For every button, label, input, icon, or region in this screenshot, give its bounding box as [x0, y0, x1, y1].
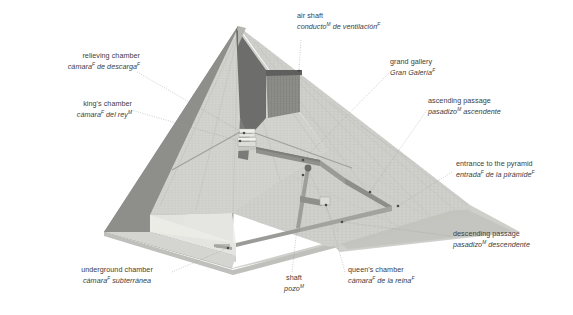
gender-marker: F: [532, 170, 535, 175]
label-descending-passage-en: descending passage: [453, 229, 530, 238]
label-queens-chamber-en: queen's chamber: [348, 265, 414, 274]
label-ascending-passage: ascending passage pasadizoM ascendente: [428, 96, 501, 117]
gender-marker: F: [377, 22, 380, 27]
gender-marker: F: [411, 276, 414, 281]
label-air-shaft: air shaft conductoM de ventilaciónF: [297, 11, 380, 32]
gender-marker: M: [300, 284, 304, 289]
label-shaft-es: pozoM: [272, 282, 316, 294]
label-kings-chamber-en: king's chamber: [22, 99, 132, 108]
label-grand-gallery-es: Gran GaleríaF: [390, 66, 435, 78]
label-relieving-chamber-es: cámaraF de descargaF: [22, 60, 140, 72]
label-queens-chamber: queen's chamber cámaraF de la reinaF: [348, 265, 414, 286]
label-air-shaft-es: conductoM de ventilaciónF: [297, 20, 380, 32]
label-descending-passage: descending passage pasadizoM descendente: [453, 229, 530, 250]
label-entrance-en: entrance to the pyramid: [456, 159, 535, 168]
label-air-shaft-en: air shaft: [297, 11, 380, 20]
label-grand-gallery: grand gallery Gran GaleríaF: [390, 57, 435, 78]
gender-marker: M: [128, 110, 132, 115]
label-ascending-passage-es: pasadizoM ascendente: [428, 105, 501, 117]
pyramid-cutaway-figure: relieving chamber cámaraF de descargaF k…: [0, 0, 573, 315]
label-entrance-to-the-pyramid: entrance to the pyramid entradaF de la p…: [456, 159, 535, 180]
gender-marker: F: [432, 68, 435, 73]
gender-marker: F: [137, 62, 140, 67]
label-queens-chamber-es: cámaraF de la reinaF: [348, 274, 414, 286]
label-relieving-chamber-en: relieving chamber: [22, 51, 140, 60]
label-kings-chamber-es: cámaraF del reyM: [22, 108, 132, 120]
label-grand-gallery-en: grand gallery: [390, 57, 435, 66]
label-entrance-es: entradaF de la pirámideF: [456, 168, 535, 180]
label-relieving-chamber: relieving chamber cámaraF de descargaF: [22, 51, 140, 72]
label-shaft: shaft pozoM: [272, 273, 316, 294]
label-ascending-passage-en: ascending passage: [428, 96, 501, 105]
label-underground-chamber-es: cámaraF subterránea: [52, 274, 182, 286]
label-shaft-en: shaft: [272, 273, 316, 282]
label-underground-chamber: underground chamber cámaraF subterránea: [52, 265, 182, 286]
label-kings-chamber: king's chamber cámaraF del reyM: [22, 99, 132, 120]
label-underground-chamber-en: underground chamber: [52, 265, 182, 274]
label-descending-passage-es: pasadizoM descendente: [453, 238, 530, 250]
